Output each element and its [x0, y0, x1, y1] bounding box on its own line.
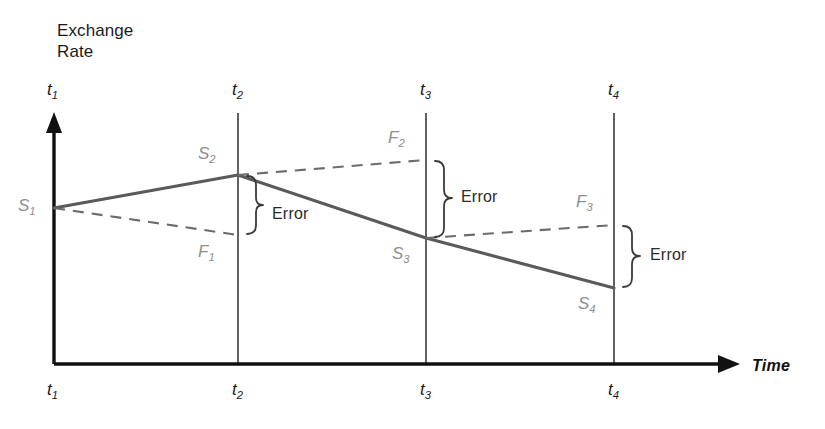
point-f2-text: F [388, 128, 398, 147]
forward-rate-segment-t3-t4 [426, 225, 614, 238]
point-label-f1: F1 [198, 242, 215, 263]
error-label-t3: Error [461, 188, 498, 206]
tick-label-bottom-t3: t3 [420, 380, 431, 401]
point-label-s2: S2 [198, 144, 216, 165]
tick-bottom-t2-sub: 2 [237, 389, 243, 401]
point-label-f2: F2 [388, 128, 405, 149]
point-f3-text: F [576, 192, 586, 211]
tick-label-top-t4: t4 [608, 80, 619, 101]
tick-top-t3-sub: 3 [425, 89, 431, 101]
tick-bottom-t3-sub: 3 [425, 389, 431, 401]
x-axis-title: Time [752, 357, 790, 375]
point-s1-text: S [18, 196, 29, 215]
point-s1-sub: 1 [29, 205, 35, 217]
error-label-t2: Error [272, 205, 309, 223]
tick-label-bottom-t1: t1 [47, 380, 58, 401]
point-s4-text: S [578, 294, 589, 313]
point-s3-sub: 3 [403, 253, 409, 265]
point-f2-sub: 2 [398, 137, 404, 149]
point-f3-sub: 3 [586, 201, 592, 213]
point-label-s3: S3 [392, 244, 410, 265]
exchange-rate-forecast-error-figure: Exchange Rate t1 t2 t3 t4 [0, 0, 825, 429]
error-brace-t2 [247, 176, 263, 234]
point-f1-sub: 1 [208, 251, 214, 263]
error-brace-t4 [623, 226, 640, 287]
tick-bottom-t4-sub: 4 [613, 389, 619, 401]
tick-top-t1-sub: 1 [52, 89, 58, 101]
tick-label-top-t2: t2 [232, 80, 243, 101]
point-s4-sub: 4 [589, 303, 595, 315]
point-s3-text: S [392, 244, 403, 263]
point-label-s4: S4 [578, 294, 596, 315]
tick-label-top-t3: t3 [420, 80, 431, 101]
forward-rate-segment-t1-t2 [54, 208, 238, 235]
error-label-t4: Error [650, 246, 687, 264]
tick-label-top-t1: t1 [47, 80, 58, 101]
y-axis-arrowhead [46, 112, 62, 133]
point-label-s1: S1 [18, 196, 36, 217]
forward-rate-segment-t2-t3 [238, 160, 426, 175]
chart-canvas [0, 0, 825, 429]
tick-label-bottom-t4: t4 [608, 380, 619, 401]
point-s2-text: S [198, 144, 209, 163]
tick-top-t2-sub: 2 [237, 89, 243, 101]
error-brace-t3 [435, 161, 452, 237]
point-s2-sub: 2 [209, 153, 215, 165]
point-f1-text: F [198, 242, 208, 261]
tick-top-t4-sub: 4 [613, 89, 619, 101]
tick-label-bottom-t2: t2 [232, 380, 243, 401]
point-label-f3: F3 [576, 192, 593, 213]
x-axis-arrowhead [718, 355, 740, 373]
tick-bottom-t1-sub: 1 [52, 389, 58, 401]
